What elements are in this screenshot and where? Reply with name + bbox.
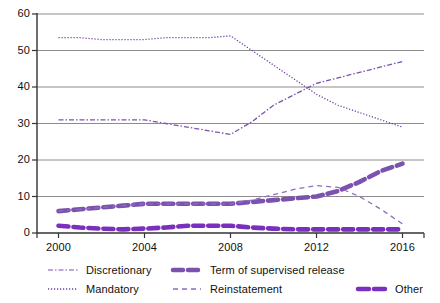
legend-item-discretionary[interactable]: Discretionary — [46, 263, 152, 277]
legend-item-term-of-supervised-release[interactable]: Term of supervised release — [170, 263, 345, 277]
gridlines — [37, 14, 424, 197]
x-tick-label: 2000 — [36, 241, 82, 253]
chart-legend: Discretionary Mandatory Term of supervis… — [0, 258, 440, 303]
series-layer — [59, 36, 403, 229]
legend-item-mandatory[interactable]: Mandatory — [46, 282, 139, 296]
legend-item-other[interactable]: Other — [355, 282, 423, 296]
legend-label-mandatory: Mandatory — [86, 283, 139, 295]
legend-label-term-of-supervised-release: Term of supervised release — [210, 264, 345, 276]
x-tick-label: 2016 — [380, 241, 426, 253]
y-tick-label: 20 — [0, 153, 30, 165]
series-line-mandatory — [59, 36, 403, 127]
legend-label-other: Other — [395, 283, 423, 295]
y-tick-label: 60 — [0, 7, 30, 19]
y-tick-label: 30 — [0, 117, 30, 129]
legend-item-reinstatement[interactable]: Reinstatement — [170, 282, 282, 296]
legend-swatch-other — [355, 283, 389, 295]
line-chart: 6050403020100 20002004200820122016 Discr… — [0, 0, 440, 303]
x-tick-label: 2012 — [294, 241, 340, 253]
y-tick-label: 10 — [0, 190, 30, 202]
y-tick-label: 0 — [0, 226, 30, 238]
legend-swatch-term-of-supervised-release — [170, 264, 204, 276]
legend-swatch-mandatory — [46, 283, 80, 295]
legend-swatch-discretionary — [46, 264, 80, 276]
x-tick-label: 2004 — [122, 241, 168, 253]
legend-swatch-reinstatement — [170, 283, 204, 295]
y-tick-label: 50 — [0, 44, 30, 56]
y-tick-label: 40 — [0, 80, 30, 92]
legend-label-discretionary: Discretionary — [86, 264, 152, 276]
x-tick-label: 2008 — [208, 241, 254, 253]
legend-label-reinstatement: Reinstatement — [210, 283, 282, 295]
series-line-other — [59, 226, 403, 230]
